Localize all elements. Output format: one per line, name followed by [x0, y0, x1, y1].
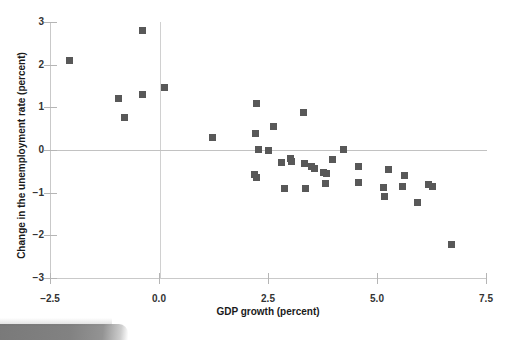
data-point — [139, 91, 146, 98]
data-point — [329, 156, 336, 163]
x-tick-label: 0.0 — [152, 293, 166, 304]
data-point — [66, 57, 73, 64]
data-point — [115, 95, 122, 102]
data-point — [300, 109, 307, 116]
data-point — [209, 134, 216, 141]
x-tick-label: 7.5 — [479, 293, 493, 304]
y-tick-label: 3 — [18, 17, 44, 27]
y-tick-label-wrap: 3 — [0, 17, 44, 27]
x-tick-label-wrap: −2.5 — [30, 288, 70, 306]
data-point — [139, 27, 146, 34]
data-point — [311, 165, 318, 172]
y-axis-title: Change in the unemployment rate (percent… — [16, 31, 27, 281]
x-tick-mark — [486, 273, 487, 284]
data-point — [265, 147, 272, 154]
x-tick-label: −2.5 — [40, 293, 60, 304]
data-point — [385, 166, 392, 173]
data-point — [355, 179, 362, 186]
data-point — [323, 170, 330, 177]
plot-area — [50, 22, 486, 278]
data-point — [355, 163, 362, 170]
x-tick-label-wrap: 5.0 — [357, 288, 397, 306]
data-point — [399, 183, 406, 190]
data-point — [401, 172, 408, 179]
data-point — [121, 114, 128, 121]
data-point — [448, 241, 455, 248]
data-point — [322, 180, 329, 187]
x-tick-label-wrap: 2.5 — [248, 288, 288, 306]
data-point — [253, 174, 260, 181]
data-point — [380, 184, 387, 191]
data-point — [381, 193, 388, 200]
x-tick-label-wrap: 7.5 — [466, 288, 506, 306]
data-point — [253, 100, 260, 107]
x-tick-label-wrap: 0.0 — [139, 288, 179, 306]
data-point — [288, 158, 295, 165]
data-point — [414, 199, 421, 206]
x-axis-title: GDP growth (percent) — [50, 306, 486, 317]
data-point — [281, 185, 288, 192]
data-point — [278, 159, 285, 166]
data-point — [340, 146, 347, 153]
data-point — [161, 84, 168, 91]
data-point — [301, 160, 308, 167]
scatter-plot-figure: 3210−1−2−3 −2.50.02.55.07.5 GDP growth (… — [0, 0, 507, 340]
data-point — [252, 130, 259, 137]
data-point — [270, 123, 277, 130]
data-point — [255, 146, 262, 153]
x-tick-label: 5.0 — [370, 293, 384, 304]
scan-edge-artifact — [0, 324, 128, 340]
data-point — [429, 183, 436, 190]
data-point — [302, 185, 309, 192]
x-tick-label: 2.5 — [261, 293, 275, 304]
